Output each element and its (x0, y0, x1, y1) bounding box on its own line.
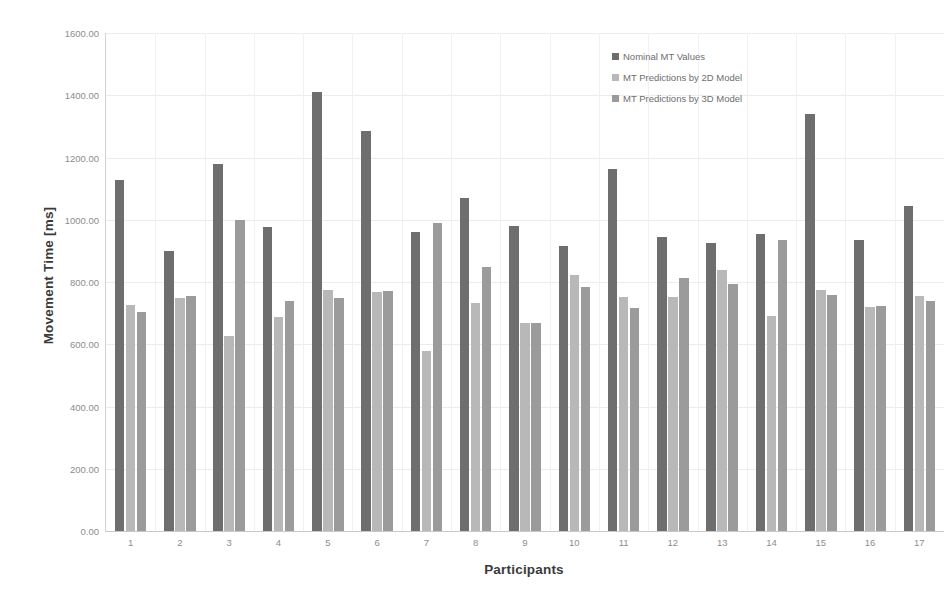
legend-item: MT Predictions by 3D Model (612, 88, 832, 109)
bar (559, 246, 569, 531)
bar (854, 240, 864, 531)
bar (531, 323, 541, 531)
bar (827, 295, 837, 531)
x-tick-label: 12 (668, 537, 679, 548)
bar (263, 227, 273, 531)
bar (312, 92, 322, 531)
x-tick-label: 2 (177, 537, 182, 548)
chart-legend: Nominal MT ValuesMT Predictions by 2D Mo… (612, 46, 832, 109)
x-tick-label: 15 (815, 537, 826, 548)
bar (285, 301, 295, 531)
bar (778, 240, 788, 531)
y-tick-label: 0.00 (81, 526, 100, 537)
chart-figure: Movement Time [ms] 0.00200.00400.00600.0… (0, 0, 950, 597)
legend-swatch-icon (612, 95, 619, 102)
x-tick-label: 17 (914, 537, 925, 548)
bar-group (106, 33, 155, 531)
bar (706, 243, 716, 531)
bar (460, 198, 470, 531)
bar (137, 312, 147, 531)
y-tick-label: 1200.00 (65, 152, 99, 163)
bar (383, 291, 393, 531)
bar (619, 297, 629, 531)
x-tick-label: 4 (276, 537, 281, 548)
bar (411, 232, 421, 531)
bar-group (451, 33, 500, 531)
bar-group (402, 33, 451, 531)
x-tick-label: 5 (325, 537, 330, 548)
bar (581, 287, 591, 531)
bar (372, 292, 382, 531)
bar (657, 237, 667, 531)
y-tick-label: 200.00 (70, 463, 99, 474)
bar-group (500, 33, 549, 531)
bar-group (895, 33, 944, 531)
bar (471, 303, 481, 531)
y-tick-label: 400.00 (70, 401, 99, 412)
bar (876, 306, 886, 531)
cropped-title-strip (180, 0, 740, 10)
bar (224, 336, 234, 531)
bar (767, 316, 777, 531)
x-tick-label: 10 (569, 537, 580, 548)
x-tick-label: 1 (128, 537, 133, 548)
y-tick-label: 1000.00 (65, 214, 99, 225)
x-tick-label: 6 (374, 537, 379, 548)
bar (904, 206, 914, 531)
bar (816, 290, 826, 531)
bar (608, 169, 618, 531)
x-tick-label: 3 (227, 537, 232, 548)
bar (728, 284, 738, 531)
bar (361, 131, 371, 531)
bar (422, 351, 432, 531)
bar (668, 297, 678, 531)
x-tick-label: 14 (766, 537, 777, 548)
bar (323, 290, 333, 531)
bar (679, 278, 689, 531)
bar (717, 270, 727, 531)
bar (235, 220, 245, 531)
bar-group (352, 33, 401, 531)
y-tick-label: 600.00 (70, 339, 99, 350)
legend-label: MT Predictions by 2D Model (623, 72, 742, 83)
bar (433, 223, 443, 531)
bar-group (550, 33, 599, 531)
bar (865, 307, 875, 531)
bar (756, 234, 766, 531)
legend-swatch-icon (612, 74, 619, 81)
x-tick-label: 16 (865, 537, 876, 548)
bar-group (205, 33, 254, 531)
y-tick-label: 1600.00 (65, 28, 99, 39)
bar (115, 180, 125, 531)
x-axis-title: Participants (105, 562, 943, 577)
y-tick-label: 800.00 (70, 277, 99, 288)
bar-group (845, 33, 894, 531)
bar (520, 323, 530, 531)
bar (509, 226, 519, 531)
legend-label: MT Predictions by 3D Model (623, 93, 742, 104)
bar-group (303, 33, 352, 531)
bar-group (155, 33, 204, 531)
bar (570, 275, 580, 531)
bar (175, 298, 185, 531)
bar (186, 296, 196, 531)
y-axis-title: Movement Time [ms] (41, 166, 56, 386)
bar-group (254, 33, 303, 531)
x-tick-label: 7 (424, 537, 429, 548)
bar (164, 251, 174, 531)
bar (915, 296, 925, 531)
bar (213, 164, 223, 531)
x-tick-label: 13 (717, 537, 728, 548)
bar (630, 308, 640, 531)
x-tick-label: 11 (619, 537, 629, 548)
bar (274, 317, 284, 531)
bar (334, 298, 344, 531)
bar (482, 267, 492, 531)
x-tick-label: 9 (522, 537, 527, 548)
legend-item: Nominal MT Values (612, 46, 832, 67)
legend-swatch-icon (612, 53, 619, 60)
legend-item: MT Predictions by 2D Model (612, 67, 832, 88)
x-tick-label: 8 (473, 537, 478, 548)
bar (805, 114, 815, 531)
bar (926, 301, 936, 531)
